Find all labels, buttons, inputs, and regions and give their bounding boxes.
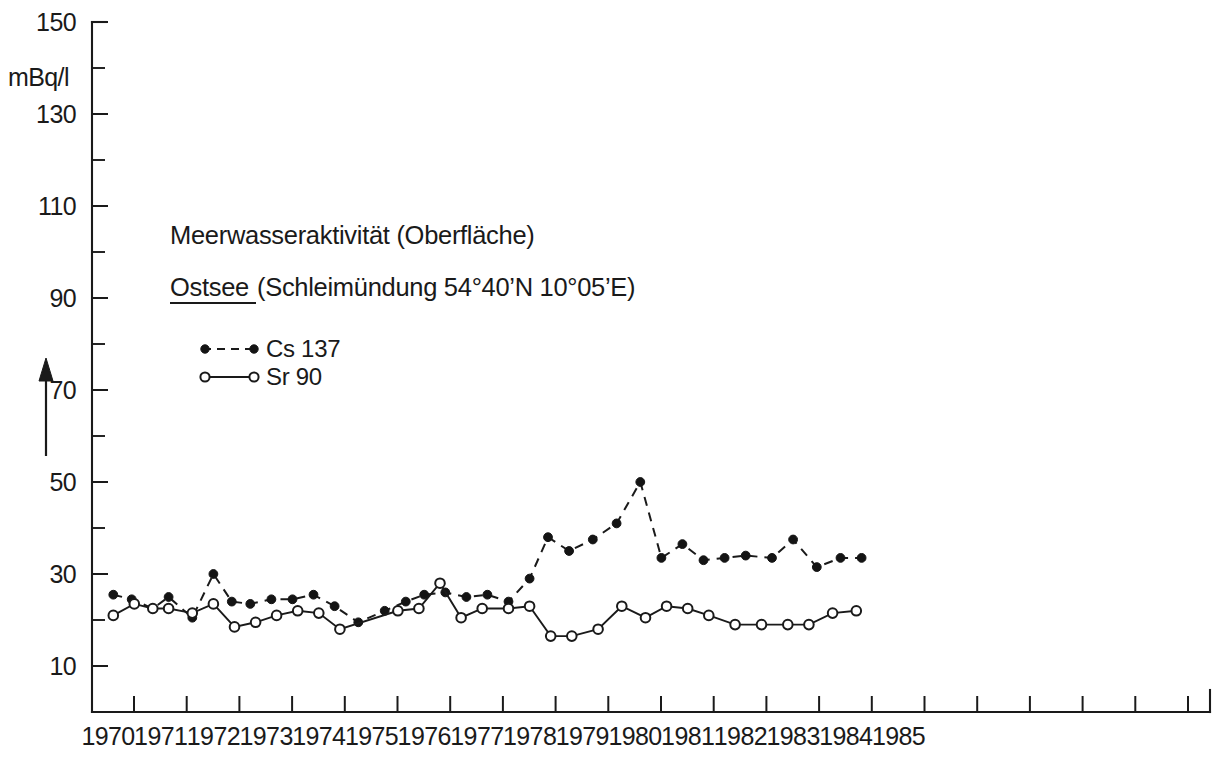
data-point-marker	[230, 622, 240, 632]
legend-entry-sr90: Sr 90	[200, 363, 321, 390]
data-point-marker	[617, 601, 627, 611]
legend: Cs 137 Sr 90	[200, 335, 340, 390]
x-tick-label: 1973	[239, 722, 292, 750]
data-point-marker	[246, 600, 255, 609]
x-tick-label: 1982	[714, 722, 767, 750]
x-tick-label: 1976	[398, 722, 451, 750]
x-axis-ticks	[134, 696, 1188, 712]
data-point-marker	[741, 551, 750, 560]
data-point-marker	[636, 478, 645, 487]
data-point-marker	[293, 606, 303, 616]
x-tick-label: 1984	[819, 722, 873, 750]
x-tick-label: 1985	[872, 722, 925, 750]
axes	[92, 22, 1210, 712]
data-point-marker	[456, 613, 466, 623]
legend-entry-cs137: Cs 137	[201, 335, 340, 362]
data-point-marker	[804, 620, 814, 630]
line-chart: 1030507090110130150 19701971197219731974…	[0, 0, 1227, 761]
data-point-marker	[657, 554, 666, 563]
x-tick-label: 1971	[134, 722, 187, 750]
data-point-marker	[414, 604, 424, 614]
data-point-marker	[720, 554, 729, 563]
data-point-marker	[588, 535, 597, 544]
data-point-marker	[209, 599, 219, 609]
series-sr-90	[109, 578, 862, 640]
data-point-marker	[699, 556, 708, 565]
data-point-marker	[272, 611, 282, 621]
data-point-marker	[544, 533, 553, 542]
y-axis-ticks	[92, 22, 108, 666]
data-point-marker	[227, 597, 236, 606]
data-point-marker	[504, 604, 514, 614]
data-point-marker	[314, 608, 324, 618]
y-tick-label: 130	[36, 100, 76, 128]
data-point-marker	[678, 540, 687, 549]
chart-title-location: Ostsee	[170, 273, 249, 301]
y-tick-label: 70	[49, 376, 76, 404]
legend-marker-filled-circle	[201, 345, 209, 353]
data-point-marker	[188, 608, 198, 618]
x-axis-tick-labels: 1970197119721973197419751976197719781979…	[81, 722, 925, 750]
y-tick-label: 10	[49, 652, 76, 680]
data-series-layer	[109, 478, 866, 641]
chart-title-coordinates: (Schleimündung 54°40’N 10°05’E)	[257, 273, 635, 301]
data-point-marker	[857, 554, 866, 563]
y-tick-label: 50	[49, 468, 76, 496]
data-point-marker	[109, 611, 119, 621]
data-point-marker	[812, 563, 821, 572]
data-point-marker	[130, 599, 140, 609]
x-tick-label: 1977	[450, 722, 503, 750]
x-tick-label: 1983	[766, 722, 819, 750]
data-point-marker	[612, 519, 621, 528]
data-point-marker	[209, 570, 218, 579]
data-point-marker	[251, 618, 261, 628]
x-tick-label: 1981	[661, 722, 714, 750]
y-tick-label: 90	[49, 284, 76, 312]
data-point-marker	[730, 620, 740, 630]
y-tick-label: 30	[49, 560, 76, 588]
data-point-marker	[852, 606, 862, 616]
data-point-marker	[393, 606, 403, 616]
data-point-marker	[757, 620, 767, 630]
data-point-marker	[683, 604, 693, 614]
data-point-marker	[483, 590, 492, 599]
legend-marker-open-circle	[249, 372, 258, 381]
y-tick-label: 150	[36, 8, 76, 36]
y-tick-label: 110	[38, 192, 76, 220]
y-axis-unit-label: mBq/l	[8, 63, 69, 91]
x-tick-label: 1978	[503, 722, 556, 750]
data-point-marker	[335, 624, 345, 634]
legend-marker-open-circle	[200, 372, 209, 381]
data-point-marker	[789, 535, 798, 544]
x-tick-label: 1970	[81, 722, 134, 750]
data-point-marker	[836, 554, 845, 563]
data-point-marker	[330, 602, 339, 611]
x-tick-label: 1974	[292, 722, 346, 750]
data-point-marker	[435, 578, 445, 588]
data-point-marker	[148, 604, 158, 614]
x-tick-label: 1975	[345, 722, 398, 750]
data-point-marker	[401, 597, 410, 606]
legend-marker-filled-circle	[250, 345, 258, 353]
data-point-marker	[267, 595, 276, 604]
series-line	[113, 482, 861, 622]
data-point-marker	[164, 604, 174, 614]
data-point-marker	[662, 601, 672, 611]
y-axis-tick-labels: 1030507090110130150	[36, 8, 76, 680]
legend-label-cs137: Cs 137	[266, 335, 340, 362]
x-tick-label: 1980	[608, 722, 661, 750]
data-point-marker	[109, 590, 118, 599]
data-point-marker	[768, 554, 777, 563]
data-point-marker	[477, 604, 487, 614]
y-axis-direction-arrow	[39, 358, 53, 456]
data-point-marker	[288, 595, 297, 604]
chart-page: 1030507090110130150 19701971197219731974…	[0, 0, 1227, 761]
series-cs-137	[109, 478, 866, 627]
data-point-marker	[783, 620, 793, 630]
data-point-marker	[462, 593, 471, 602]
data-point-marker	[593, 624, 603, 634]
legend-label-sr90: Sr 90	[266, 363, 322, 390]
data-point-marker	[525, 574, 534, 583]
data-point-marker	[641, 613, 651, 623]
x-tick-label: 1979	[556, 722, 609, 750]
